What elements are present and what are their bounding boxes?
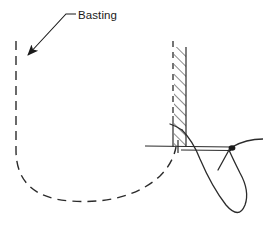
needle-shaft bbox=[145, 139, 263, 153]
basting-leader-line bbox=[28, 14, 76, 55]
thread-loop bbox=[182, 130, 247, 213]
thread-tail-lower bbox=[218, 150, 229, 170]
dashed-basting-line bbox=[16, 41, 176, 201]
illustration-canvas: Basting bbox=[0, 0, 265, 229]
basting-label: Basting bbox=[78, 9, 117, 21]
basting-diagram-figure: Basting bbox=[0, 0, 265, 229]
hatched-seam-band bbox=[174, 47, 186, 146]
